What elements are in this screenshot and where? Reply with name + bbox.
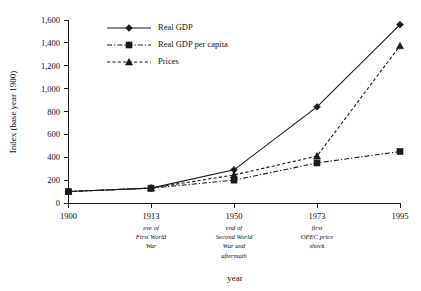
y-axis-tick-labels: 02004006008001,0001,2001,4001,600 (41, 15, 60, 208)
x-tick-label: 1913 (143, 211, 160, 221)
x-tick-label: 1973 (309, 211, 326, 221)
legend-label: Real GDP (158, 22, 193, 32)
y-axis-ticks (64, 20, 69, 203)
y-tick-label: 600 (47, 129, 60, 139)
data-point-square (314, 160, 320, 166)
legend-item[interactable]: Real GDP (107, 22, 193, 32)
x-axis-title: year (227, 273, 243, 283)
data-point-square (397, 149, 403, 155)
x-tick-label: 1950 (226, 211, 243, 221)
legend-marker-diamond (126, 25, 133, 32)
y-tick-label: 200 (47, 175, 60, 185)
y-tick-label: 1,600 (41, 15, 60, 25)
x-tick-note: end ofSecond WorldWar andaftermath (216, 224, 253, 259)
legend-marker-square (126, 42, 132, 48)
y-tick-label: 400 (47, 152, 60, 162)
legend-item[interactable]: Prices (107, 56, 179, 66)
chart-figure: 02004006008001,0001,2001,4001,600 Index … (0, 0, 421, 291)
legend-label: Prices (158, 56, 179, 66)
y-tick-label: 1,200 (41, 61, 60, 71)
y-tick-label: 0 (56, 198, 60, 208)
y-tick-label: 1,400 (41, 38, 60, 48)
y-axis-title: Index (base year 1900) (8, 71, 18, 154)
x-axis-group: 19001913195019731995 eve ofFirst WorldWa… (60, 204, 409, 284)
legend-label: Real GDP per capita (158, 39, 228, 49)
x-axis-tick-notes: eve ofFirst WorldWarend ofSecond WorldWa… (135, 224, 333, 259)
data-series-layer (65, 21, 404, 195)
x-tick-note: firstOPEC priceshock (301, 224, 333, 249)
x-tick-note: eve ofFirst WorldWar (135, 224, 167, 249)
x-axis-tick-labels: 19001913195019731995 (60, 211, 409, 221)
legend-item[interactable]: Real GDP per capita (107, 39, 228, 49)
series-real-gdp (65, 21, 403, 195)
chart-legend: Real GDPReal GDP per capitaPrices (107, 22, 228, 66)
x-tick-label: 1995 (392, 211, 409, 221)
y-tick-label: 800 (47, 107, 60, 117)
line-chart: 02004006008001,0001,2001,4001,600 Index … (0, 0, 421, 291)
x-axis-ticks (69, 204, 401, 209)
y-axis-group: 02004006008001,0001,2001,4001,600 Index … (8, 15, 69, 208)
series-prices (65, 42, 404, 194)
x-tick-label: 1900 (60, 211, 77, 221)
y-tick-label: 1,000 (41, 84, 60, 94)
data-point-triangle (397, 42, 404, 49)
